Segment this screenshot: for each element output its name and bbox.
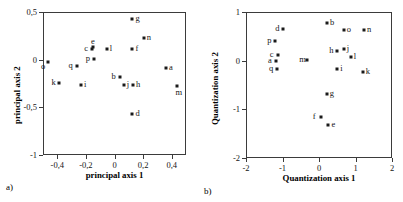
data-point bbox=[131, 48, 134, 51]
data-point bbox=[92, 58, 95, 61]
y-tick-mark bbox=[242, 109, 246, 110]
data-point-label: j bbox=[347, 44, 349, 53]
x-tick-mark bbox=[392, 158, 393, 162]
data-point-label: n bbox=[367, 25, 371, 34]
data-point bbox=[361, 70, 364, 73]
data-point-label: a bbox=[169, 63, 173, 72]
data-point bbox=[105, 47, 108, 50]
data-point-label: d bbox=[275, 24, 279, 33]
data-point bbox=[349, 56, 352, 59]
x-tick-mark bbox=[57, 155, 58, 159]
x-tick-mark bbox=[319, 158, 320, 162]
data-point bbox=[342, 47, 345, 50]
data-point bbox=[118, 76, 121, 79]
x-tick-mark bbox=[246, 158, 247, 162]
data-point bbox=[326, 21, 329, 24]
data-point-label: p bbox=[86, 54, 90, 63]
data-point bbox=[58, 82, 61, 85]
y-tick-label: 0 bbox=[33, 55, 37, 65]
data-point-label: i bbox=[340, 64, 342, 73]
data-point-label: m bbox=[175, 88, 182, 97]
x-tick-label: 2 bbox=[390, 163, 394, 173]
data-point-label: k bbox=[51, 78, 55, 87]
data-point bbox=[274, 40, 277, 43]
y-tick-label: -1 bbox=[30, 150, 37, 160]
data-point-label: c bbox=[84, 44, 88, 53]
data-point bbox=[336, 67, 339, 70]
x-tick-label: 0,4 bbox=[166, 160, 177, 170]
panel-a: -0,4-0,200,20,40,50-0,5-1abcdefghijklmno… bbox=[0, 0, 196, 202]
x-tick-mark bbox=[143, 155, 144, 159]
y-tick-mark bbox=[242, 12, 246, 13]
data-point-label: l bbox=[354, 52, 356, 61]
data-point-label: m bbox=[299, 55, 306, 64]
x-tick-label: -0,4 bbox=[51, 160, 64, 170]
x-tick-label: 0,2 bbox=[138, 160, 149, 170]
data-point bbox=[131, 113, 134, 116]
data-point bbox=[336, 49, 339, 52]
panel-caption-b: b) bbox=[204, 186, 212, 196]
x-tick-mark bbox=[283, 158, 284, 162]
data-point-label: k bbox=[366, 67, 370, 76]
panel-b: -2-101210-1-2abcdefghijklmnopq Quantizat… bbox=[196, 0, 403, 202]
x-tick-mark bbox=[115, 155, 116, 159]
data-point-label: e bbox=[91, 37, 95, 46]
data-point bbox=[276, 67, 279, 70]
data-point-label: q bbox=[69, 61, 73, 70]
data-point bbox=[164, 67, 167, 70]
y-axis-title-b: Quantization axis 2 bbox=[210, 52, 220, 125]
data-point bbox=[274, 60, 277, 63]
plot-frame-a bbox=[43, 12, 186, 155]
figure-scatter-plots: -0,4-0,200,20,40,50-0,5-1abcdefghijklmno… bbox=[0, 0, 403, 202]
data-point-label: n bbox=[147, 33, 151, 42]
data-point-label: f bbox=[135, 44, 138, 53]
y-tick-label: -1 bbox=[233, 104, 240, 114]
data-point bbox=[282, 27, 285, 30]
data-point bbox=[142, 37, 145, 40]
data-point-label: b bbox=[112, 72, 116, 81]
y-tick-label: 0,5 bbox=[26, 7, 37, 17]
data-point-label: c bbox=[270, 50, 274, 59]
data-point-label: l bbox=[110, 44, 112, 53]
data-point bbox=[362, 29, 365, 32]
data-point bbox=[47, 61, 50, 64]
x-tick-mark bbox=[172, 155, 173, 159]
y-tick-mark bbox=[242, 61, 246, 62]
data-point bbox=[327, 123, 330, 126]
y-tick-label: -0,5 bbox=[24, 102, 37, 112]
y-tick-mark bbox=[39, 107, 43, 108]
data-point-label: j bbox=[127, 80, 129, 89]
data-point bbox=[75, 64, 78, 67]
data-point-label: i bbox=[84, 80, 86, 89]
x-tick-label: -2 bbox=[242, 163, 249, 173]
x-tick-mark bbox=[86, 155, 87, 159]
x-tick-label: 0 bbox=[112, 160, 116, 170]
y-tick-label: 1 bbox=[236, 7, 240, 17]
data-point bbox=[79, 84, 82, 87]
x-axis-title-a: principal axis 1 bbox=[86, 170, 144, 180]
data-point bbox=[342, 29, 345, 32]
x-tick-label: 1 bbox=[353, 163, 357, 173]
data-point-label: d bbox=[135, 109, 139, 118]
data-point-label: h bbox=[329, 46, 333, 55]
data-point bbox=[306, 58, 309, 61]
data-point-label: g bbox=[330, 89, 334, 98]
data-point-label: e bbox=[331, 120, 335, 129]
data-point-label: g bbox=[135, 14, 139, 23]
data-point bbox=[319, 115, 322, 118]
data-point bbox=[92, 46, 95, 49]
data-point bbox=[122, 84, 125, 87]
data-point bbox=[132, 83, 135, 86]
data-point-label: p bbox=[267, 36, 271, 45]
y-tick-label: 0 bbox=[236, 56, 240, 66]
data-point-label: o bbox=[347, 25, 351, 34]
y-tick-mark bbox=[242, 158, 246, 159]
y-tick-label: -2 bbox=[233, 153, 240, 163]
y-axis-title-a: principal axis 2 bbox=[12, 66, 22, 124]
x-axis-title-b: Quantization axis 1 bbox=[283, 173, 356, 183]
data-point-label: b bbox=[330, 18, 334, 27]
data-point bbox=[131, 18, 134, 21]
x-tick-label: -0,2 bbox=[79, 160, 92, 170]
y-tick-mark bbox=[39, 12, 43, 13]
data-point-label: f bbox=[313, 112, 316, 121]
